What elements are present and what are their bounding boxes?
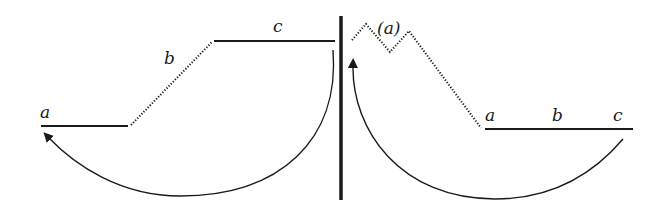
arrow-c-to-a-left xyxy=(49,50,334,196)
diagram-canvas: a b c (a) a b c xyxy=(0,0,663,216)
label-zigzag-a: (a) xyxy=(377,18,400,38)
segment-zigzag-dotted xyxy=(352,24,481,128)
label-c-left: c xyxy=(273,16,283,36)
left-panel: a b c xyxy=(40,16,335,196)
right-panel: (a) a b c xyxy=(352,18,633,199)
label-a-left: a xyxy=(40,102,50,122)
arrow-c-to-a-right xyxy=(353,66,623,199)
label-a-right: a xyxy=(485,105,495,125)
diagram-stage: a b c (a) a b c xyxy=(0,0,663,216)
label-b-left: b xyxy=(164,48,175,68)
label-c-right: c xyxy=(613,105,623,125)
label-b-right: b xyxy=(552,105,563,125)
